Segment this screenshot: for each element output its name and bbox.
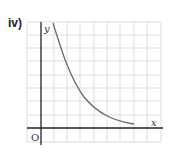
- origin-label: O: [31, 132, 39, 143]
- decay-curve: [53, 23, 134, 124]
- grid: [27, 22, 161, 142]
- chart: y x O: [0, 0, 169, 155]
- y-axis-label: y: [43, 23, 50, 34]
- x-axis-label: x: [151, 117, 157, 128]
